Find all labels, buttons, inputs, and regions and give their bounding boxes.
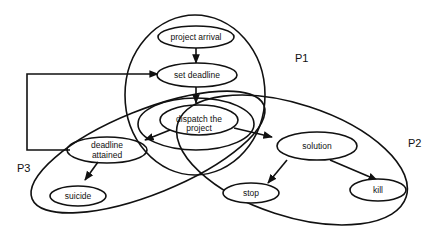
node-label: project arrival [170,32,221,42]
node-set-deadline: set deadline [157,63,237,87]
node-stop: stop [223,183,279,203]
node-label: set deadline [174,70,220,80]
region-label-p2: P2 [408,137,421,149]
region-p3-boundary [16,66,279,228]
edge-attained-to-suicide [85,162,98,180]
region-label-p3: P3 [17,162,30,174]
node-label: kill [373,185,383,195]
node-deadline-attained: deadline attained [67,137,147,163]
node-label: stop [243,188,259,198]
process-diagram: project arrival set deadline dispatch th… [0,0,438,228]
node-suicide: suicide [50,186,106,206]
edge-solution-to-stop [268,160,287,183]
edge-dispatch-to-attained [145,130,170,140]
node-label-line2: attained [92,150,123,160]
node-label: suicide [65,191,92,201]
region-label-p1: P1 [295,52,308,64]
node-dispatch-the-project: dispatch the project [160,105,238,135]
node-kill: kill [350,179,406,201]
node-label: solution [302,141,332,151]
edge-solution-to-kill [330,160,377,180]
node-label-line1: deadline [91,140,123,150]
node-label-line2: project [186,123,212,133]
node-project-arrival: project arrival [158,26,234,48]
node-solution: solution [277,132,357,160]
